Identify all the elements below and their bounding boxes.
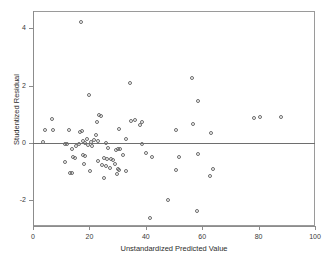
- x-tick-label: 0: [21, 232, 45, 241]
- x-axis-line: [33, 226, 315, 227]
- data-point: [195, 209, 199, 213]
- data-point: [79, 20, 83, 24]
- data-point: [138, 123, 142, 127]
- data-point: [121, 153, 125, 157]
- data-point: [67, 128, 71, 132]
- data-point: [150, 155, 154, 159]
- x-tick-label: 60: [190, 232, 214, 241]
- y-tick-label: 4: [6, 24, 26, 32]
- scatter-plot-figure: 020406080100 420-2 Unstandardized Predic…: [0, 0, 325, 264]
- data-point: [252, 116, 256, 120]
- zero-reference-line: [33, 143, 315, 144]
- x-tick-mark: [259, 226, 260, 230]
- data-point: [99, 114, 103, 118]
- x-tick-mark: [202, 226, 203, 230]
- data-point: [50, 117, 54, 121]
- x-tick-mark: [146, 226, 147, 230]
- x-axis-label: Unstandardized Predicted Value: [33, 244, 315, 253]
- data-point: [191, 122, 195, 126]
- x-tick-mark: [89, 226, 90, 230]
- data-point: [128, 81, 132, 85]
- x-tick-label: 100: [303, 232, 325, 241]
- y-axis-label: Studentized Residual: [12, 50, 21, 170]
- plot-area-frame: [33, 11, 315, 226]
- y-tick-mark: [29, 28, 33, 29]
- data-point: [118, 147, 122, 151]
- data-point: [70, 171, 74, 175]
- x-tick-label: 20: [77, 232, 101, 241]
- data-point: [124, 169, 128, 173]
- y-tick-label: -2: [6, 196, 26, 204]
- y-axis-line: [33, 11, 34, 226]
- data-point: [174, 168, 178, 172]
- data-point: [94, 133, 98, 137]
- data-point: [115, 172, 119, 176]
- data-point: [106, 146, 110, 150]
- x-tick-mark: [33, 226, 34, 230]
- data-point: [70, 147, 74, 151]
- data-point: [90, 144, 94, 148]
- data-point: [196, 99, 200, 103]
- x-tick-label: 80: [247, 232, 271, 241]
- data-point: [208, 174, 212, 178]
- y-tick-mark: [29, 200, 33, 201]
- data-point: [102, 176, 106, 180]
- data-point: [211, 167, 215, 171]
- data-point: [113, 162, 117, 166]
- data-point: [177, 155, 181, 159]
- data-point: [124, 137, 128, 141]
- x-tick-label: 40: [134, 232, 158, 241]
- data-point: [108, 166, 112, 170]
- data-point: [82, 162, 86, 166]
- data-point: [87, 93, 91, 97]
- data-point: [88, 169, 92, 173]
- y-tick-mark: [29, 86, 33, 87]
- x-tick-mark: [315, 226, 316, 230]
